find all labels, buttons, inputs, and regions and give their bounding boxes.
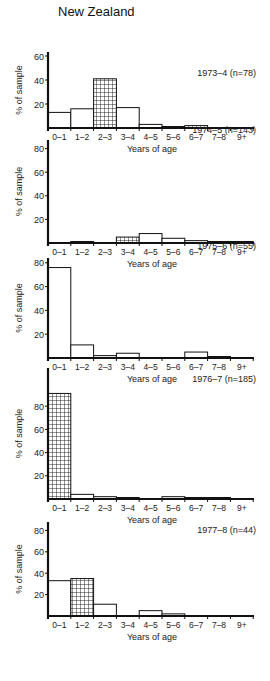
y-tick-label: 20	[34, 215, 44, 225]
histogram-stack: 2040600–11–22–33–44–55–66–77–89+Years of…	[0, 0, 270, 681]
y-tick-label: 40	[34, 306, 44, 316]
histogram-bar	[139, 234, 162, 243]
y-tick-label: 20	[34, 590, 44, 600]
x-tick-label: 3–4	[121, 620, 135, 630]
x-tick-label: 9+	[237, 362, 247, 372]
y-axis-label: % of sample	[14, 167, 24, 217]
y-tick-label: 60	[34, 282, 44, 292]
panel-season-label: 1974–5 (n=143)	[192, 125, 256, 135]
x-axis-label: Years of age	[127, 259, 177, 269]
y-tick-label: 60	[34, 547, 44, 557]
histogram-bar	[48, 112, 71, 128]
y-tick-label: 80	[34, 402, 44, 412]
y-tick-label: 80	[34, 526, 44, 536]
histogram-bar	[94, 604, 117, 616]
histogram-bar	[71, 109, 94, 128]
x-tick-label: 7–8	[212, 503, 226, 513]
x-tick-label: 1–2	[75, 247, 89, 257]
panel-season-label: 1975–6 (n=55)	[197, 241, 256, 251]
histogram-panel: 204060800–11–22–33–44–55–66–77–89+Years …	[14, 522, 256, 642]
x-tick-label: 2–3	[98, 247, 112, 257]
x-tick-label: 3–4	[121, 132, 135, 142]
x-tick-label: 1–2	[75, 620, 89, 630]
x-axis-label: Years of age	[127, 515, 177, 525]
histogram-panel: 2040600–11–22–33–44–55–66–77–89+Years of…	[14, 52, 256, 155]
histogram-panel: 204060800–11–22–33–44–55–66–77–89+Years …	[14, 368, 256, 525]
x-tick-label: 5–6	[166, 362, 180, 372]
histogram-bar	[94, 79, 117, 128]
histogram-bar	[48, 268, 71, 358]
x-tick-label: 2–3	[98, 503, 112, 513]
y-tick-label: 40	[34, 191, 44, 201]
y-axis-label: % of sample	[14, 409, 24, 459]
y-tick-label: 40	[34, 569, 44, 579]
x-tick-label: 2–3	[98, 132, 112, 142]
x-tick-label: 5–6	[166, 247, 180, 257]
histogram-bar	[48, 393, 71, 499]
y-tick-label: 60	[34, 425, 44, 435]
y-tick-label: 20	[34, 330, 44, 340]
x-tick-label: 1–2	[75, 132, 89, 142]
x-tick-label: 0–1	[52, 247, 66, 257]
x-tick-label: 6–7	[189, 620, 203, 630]
x-tick-label: 4–5	[144, 132, 158, 142]
y-tick-label: 40	[34, 76, 44, 86]
panel-season-label: 1973–4 (n=78)	[197, 68, 256, 78]
x-tick-label: 2–3	[98, 620, 112, 630]
x-tick-label: 6–7	[189, 503, 203, 513]
x-tick-label: 1–2	[75, 362, 89, 372]
x-tick-label: 7–8	[212, 620, 226, 630]
panel-season-label: 1976–7 (n=185)	[192, 374, 256, 384]
y-tick-label: 20	[34, 471, 44, 481]
x-tick-label: 5–6	[166, 132, 180, 142]
histogram-bar	[71, 345, 94, 358]
x-tick-label: 2–3	[98, 362, 112, 372]
x-tick-label: 3–4	[121, 503, 135, 513]
x-tick-label: 4–5	[144, 362, 158, 372]
x-tick-label: 7–8	[212, 362, 226, 372]
x-tick-label: 5–6	[166, 503, 180, 513]
y-axis-label: % of sample	[14, 544, 24, 594]
x-tick-label: 4–5	[144, 247, 158, 257]
y-tick-label: 60	[34, 168, 44, 178]
y-tick-label: 20	[34, 100, 44, 110]
y-tick-label: 80	[34, 258, 44, 268]
x-axis-label: Years of age	[127, 144, 177, 154]
histogram-bar	[48, 581, 71, 616]
x-tick-label: 0–1	[52, 620, 66, 630]
x-tick-label: 3–4	[121, 362, 135, 372]
x-tick-label: 4–5	[144, 503, 158, 513]
x-axis-label: Years of age	[127, 374, 177, 384]
x-tick-label: 0–1	[52, 503, 66, 513]
x-tick-label: 9+	[237, 503, 247, 513]
x-tick-label: 9+	[237, 620, 247, 630]
y-tick-label: 80	[34, 144, 44, 154]
x-axis-label: Years of age	[127, 632, 177, 642]
y-axis-label: % of sample	[14, 283, 24, 333]
y-axis-label: % of sample	[14, 65, 24, 115]
x-tick-label: 6–7	[189, 362, 203, 372]
x-tick-label: 1–2	[75, 503, 89, 513]
x-tick-label: 3–4	[121, 247, 135, 257]
y-tick-label: 40	[34, 448, 44, 458]
panel-season-label: 1977–8 (n=44)	[197, 525, 256, 535]
x-tick-label: 4–5	[144, 620, 158, 630]
histogram-bar	[71, 579, 94, 616]
x-tick-label: 0–1	[52, 132, 66, 142]
histogram-bar	[116, 108, 139, 128]
x-tick-label: 5–6	[166, 620, 180, 630]
y-tick-label: 60	[34, 52, 44, 62]
x-tick-label: 0–1	[52, 362, 66, 372]
